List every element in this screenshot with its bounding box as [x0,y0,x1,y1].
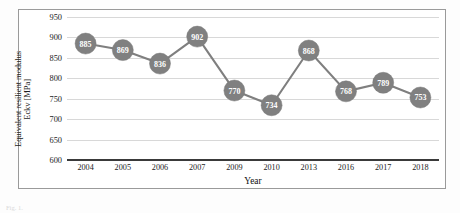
data-point-label: 789 [377,79,389,88]
x-tick-label: 2013 [301,163,317,172]
data-point[interactable]: 885 [75,33,96,54]
data-point[interactable]: 868 [298,40,319,61]
data-point-label: 868 [303,47,315,56]
x-tick-label: 2009 [226,163,242,172]
line-series: 885869836902770734868768789753 [67,17,439,160]
x-axis-title: Year [67,176,439,186]
data-point[interactable]: 768 [336,81,357,102]
x-tick-label: 2010 [263,163,279,172]
data-point-label: 753 [414,93,426,102]
data-point-label: 734 [266,101,278,110]
scanned-page: Equivalent resilient modulus Eckv [MPa] … [0,0,460,213]
y-tick-label: 800 [49,74,62,83]
x-tick-label: 2005 [115,163,131,172]
data-point-label: 869 [117,46,129,55]
data-point[interactable]: 789 [373,72,394,93]
y-tick-label: 850 [49,53,62,62]
x-tick-label: 2004 [77,163,93,172]
x-tick-label: 2016 [338,163,354,172]
x-tick-label: 2017 [375,163,391,172]
series-line [86,37,421,106]
figure-caption: Fig. 1. [6,204,206,212]
data-point-label: 885 [80,40,92,49]
x-axis-tick-labels: 2004200520062007200920102013201620172018 [67,163,439,177]
y-tick-label: 700 [49,115,62,124]
plot-area: 600650700750800850900950 885869836902770… [67,17,439,160]
y-tick-label: 950 [49,13,62,22]
data-point-label: 836 [154,60,166,69]
figure-caption-text: Fig. 1. [6,204,206,212]
x-tick-label: 2006 [152,163,168,172]
data-point[interactable]: 770 [224,80,245,101]
data-point[interactable]: 753 [410,87,431,108]
data-point[interactable]: 734 [261,95,282,116]
y-tick-label: 750 [49,94,62,103]
data-point[interactable]: 902 [187,26,208,47]
data-point-label: 902 [191,33,203,42]
data-point-label: 768 [340,87,352,96]
y-tick-label: 600 [49,156,62,165]
y-tick-label: 650 [49,135,62,144]
data-point-label: 770 [228,87,240,96]
data-point[interactable]: 869 [112,40,133,61]
x-tick-label: 2007 [189,163,205,172]
data-point[interactable]: 836 [150,53,171,74]
y-tick-label: 900 [49,33,62,42]
x-tick-label: 2018 [412,163,428,172]
